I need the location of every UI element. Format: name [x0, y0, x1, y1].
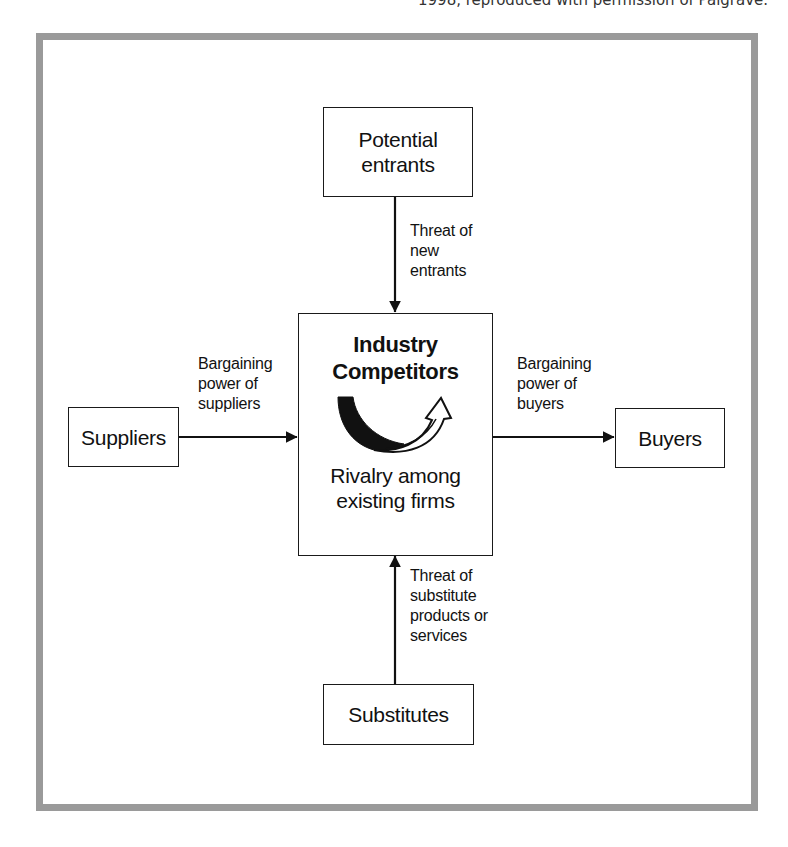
node-suppliers-label: Suppliers: [81, 425, 166, 450]
edge-label-new-entrants-line-1: Threat of: [410, 221, 472, 241]
node-industry-sub-line-1: Rivalry among: [330, 463, 460, 488]
node-potential-entrants: Potential entrants: [323, 107, 473, 197]
edge-label-buyers-line-2: power of: [517, 374, 592, 394]
curved-rivalry-arrow-icon: [336, 392, 456, 456]
edge-label-new-entrants-line-2: new: [410, 241, 472, 261]
node-buyers: Buyers: [615, 408, 725, 468]
edge-label-suppliers-line-1: Bargaining: [198, 354, 273, 374]
edge-label-suppliers-line-3: suppliers: [198, 394, 273, 414]
edge-label-suppliers-line-2: power of: [198, 374, 273, 394]
edge-label-substitutes-line-4: services: [410, 626, 488, 646]
edge-label-substitutes-line-3: products or: [410, 606, 488, 626]
node-industry-title-line-1: Industry: [353, 331, 437, 358]
edge-label-buyers-line-3: buyers: [517, 394, 592, 414]
edge-label-substitutes-line-2: substitute: [410, 586, 488, 606]
node-potential-entrants-line-2: entrants: [361, 152, 434, 177]
edge-label-substitutes-line-1: Threat of: [410, 566, 488, 586]
node-industry-competitors: Industry Competitors Rivalry among exist…: [298, 313, 493, 556]
edge-label-buyers-line-1: Bargaining: [517, 354, 592, 374]
edge-label-substitutes: Threat of substitute products or service…: [410, 566, 488, 646]
node-potential-entrants-line-1: Potential: [358, 127, 437, 152]
node-substitutes: Substitutes: [323, 684, 474, 745]
node-suppliers: Suppliers: [68, 407, 179, 467]
node-buyers-label: Buyers: [638, 426, 702, 451]
edge-label-new-entrants-line-3: entrants: [410, 261, 472, 281]
edge-label-new-entrants: Threat of new entrants: [410, 221, 472, 281]
node-industry-sub-line-2: existing firms: [336, 488, 454, 513]
edge-label-suppliers: Bargaining power of suppliers: [198, 354, 273, 414]
edge-label-buyers: Bargaining power of buyers: [517, 354, 592, 414]
node-substitutes-label: Substitutes: [348, 702, 449, 727]
node-industry-title-line-2: Competitors: [332, 358, 458, 385]
